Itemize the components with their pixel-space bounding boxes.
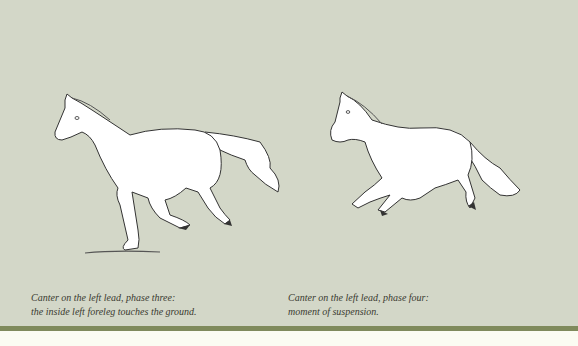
caption-line: moment of suspension. <box>288 305 429 319</box>
caption-phase-four: Canter on the left lead, phase four: mom… <box>288 291 429 319</box>
divider-band <box>0 326 578 331</box>
illustration-panel: Canter on the left lead, phase three: th… <box>0 0 578 326</box>
caption-line: Canter on the left lead, phase four: <box>288 291 429 305</box>
caption-line: Canter on the left lead, phase three: <box>31 291 197 305</box>
caption-phase-three: Canter on the left lead, phase three: th… <box>31 291 197 319</box>
horse-illustration-phase-four <box>310 80 540 240</box>
caption-line: the inside left foreleg touches the grou… <box>31 305 197 319</box>
horse-illustration-phase-three <box>20 80 290 260</box>
